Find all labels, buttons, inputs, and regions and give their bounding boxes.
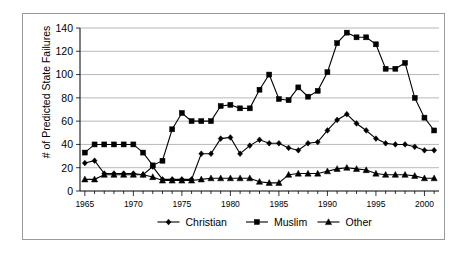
data-point-marker bbox=[82, 160, 87, 166]
data-series-group bbox=[82, 30, 438, 185]
legend-item-other[interactable]: Other bbox=[318, 216, 373, 228]
y-tickmarks-group bbox=[76, 28, 80, 191]
data-point-marker bbox=[111, 142, 116, 147]
data-point-marker bbox=[141, 150, 146, 155]
y-tick-label: 0 bbox=[67, 185, 73, 197]
data-point-marker bbox=[286, 98, 291, 103]
data-point-marker bbox=[150, 163, 155, 168]
legend-label: Other bbox=[346, 216, 373, 228]
data-point-marker bbox=[305, 140, 310, 146]
axes-group bbox=[80, 28, 439, 191]
data-point-marker bbox=[199, 151, 204, 157]
x-tick-label: 1995 bbox=[366, 199, 385, 209]
data-point-marker bbox=[354, 35, 359, 40]
y-tick-label: 140 bbox=[55, 22, 73, 34]
data-point-marker bbox=[383, 66, 388, 71]
y-tick-label: 120 bbox=[55, 45, 73, 57]
data-point-marker bbox=[393, 66, 398, 71]
data-point-marker bbox=[189, 119, 194, 124]
data-point-marker bbox=[121, 142, 126, 147]
data-point-marker bbox=[267, 72, 272, 77]
chart-svg: 020406080100120140 196519701975198019851… bbox=[23, 14, 446, 241]
data-point-marker bbox=[208, 119, 213, 124]
data-point-marker bbox=[383, 140, 388, 146]
data-point-marker bbox=[92, 142, 97, 147]
chart-legend: ChristianMuslimOther bbox=[158, 216, 373, 228]
data-point-marker bbox=[228, 102, 233, 107]
x-tick-label: 1980 bbox=[221, 199, 240, 209]
data-point-marker bbox=[286, 145, 291, 151]
chart-frame: # of Predicted State Failures 0204060801… bbox=[22, 13, 445, 240]
data-point-marker bbox=[170, 127, 175, 132]
x-tick-label: 1970 bbox=[124, 199, 143, 209]
data-point-marker bbox=[364, 35, 369, 40]
y-tick-label: 100 bbox=[55, 68, 73, 80]
x-tick-label: 2000 bbox=[415, 199, 434, 209]
y-tick-labels-group: 020406080100120140 bbox=[55, 22, 73, 197]
data-point-marker bbox=[102, 142, 107, 147]
data-point-marker bbox=[247, 106, 252, 111]
data-point-marker bbox=[422, 147, 427, 153]
legend-item-christian[interactable]: Christian bbox=[158, 216, 228, 228]
data-point-marker bbox=[403, 60, 408, 65]
chart-figure: # of Predicted State Failures 0204060801… bbox=[0, 0, 469, 262]
data-point-marker bbox=[344, 30, 349, 35]
x-tick-label: 1990 bbox=[318, 199, 337, 209]
data-point-marker bbox=[393, 142, 398, 148]
data-point-marker bbox=[276, 140, 281, 146]
data-point-marker bbox=[296, 85, 301, 90]
x-tick-label: 1965 bbox=[75, 199, 94, 209]
data-point-marker bbox=[432, 128, 437, 133]
data-point-marker bbox=[325, 70, 330, 75]
series-muslim bbox=[82, 30, 436, 168]
data-point-marker bbox=[82, 150, 87, 155]
data-point-marker bbox=[199, 119, 204, 124]
data-point-marker bbox=[412, 95, 417, 100]
data-point-marker bbox=[257, 87, 262, 92]
data-point-marker bbox=[315, 88, 320, 93]
data-point-marker bbox=[403, 142, 408, 148]
y-tick-label: 80 bbox=[61, 92, 73, 104]
data-point-marker bbox=[276, 97, 281, 102]
data-point-marker bbox=[306, 94, 311, 99]
data-point-marker bbox=[422, 115, 427, 120]
data-point-marker bbox=[335, 41, 340, 46]
data-point-marker bbox=[267, 140, 272, 146]
data-point-marker bbox=[218, 104, 223, 109]
series-line bbox=[85, 114, 434, 179]
data-point-marker bbox=[179, 110, 184, 115]
data-point-marker bbox=[160, 158, 165, 163]
data-point-marker bbox=[257, 137, 262, 143]
data-point-marker bbox=[131, 142, 136, 147]
legend-label: Muslim bbox=[274, 216, 308, 228]
plot-area: 020406080100120140 196519701975198019851… bbox=[23, 14, 446, 241]
legend-marker-diamond-icon bbox=[166, 219, 171, 225]
y-tick-label: 40 bbox=[61, 138, 73, 150]
series-line bbox=[85, 33, 434, 166]
data-point-marker bbox=[296, 147, 301, 153]
legend-label: Christian bbox=[186, 216, 228, 228]
y-tick-label: 60 bbox=[61, 115, 73, 127]
x-tick-label: 1985 bbox=[269, 199, 288, 209]
data-point-marker bbox=[432, 147, 437, 153]
data-point-marker bbox=[373, 42, 378, 47]
x-tick-labels-group: 19651970197519801985199019952000 bbox=[75, 199, 434, 209]
x-tickmarks-group bbox=[85, 191, 434, 196]
legend-marker-square-icon bbox=[254, 220, 259, 225]
y-tick-label: 20 bbox=[61, 162, 73, 174]
data-point-marker bbox=[238, 106, 243, 111]
legend-item-muslim[interactable]: Muslim bbox=[246, 216, 308, 228]
x-tick-label: 1975 bbox=[172, 199, 191, 209]
